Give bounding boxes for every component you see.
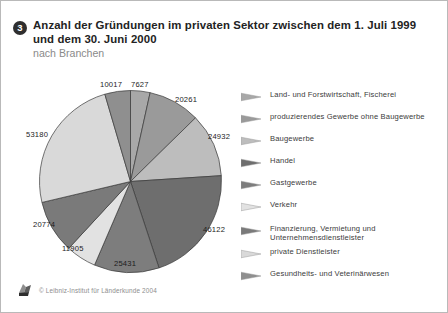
figure-number-badge: 3: [13, 21, 27, 35]
legend-marker-triangle-icon: [241, 180, 263, 190]
legend-label: private Dienstleister: [270, 248, 445, 257]
legend-marker-triangle-icon: [241, 114, 263, 124]
legend-label: Finanzierung, Vermietung und Unternehmen…: [270, 225, 445, 242]
pie-value-label: 7627: [131, 80, 149, 89]
legend-marker-triangle-icon: [241, 271, 263, 281]
legend-label: produzierendes Gewerbe ohne Baugewerbe: [270, 113, 445, 122]
page-subtitle: nach Branchen: [33, 47, 433, 60]
legend-label: Gastgewerbe: [270, 179, 445, 188]
legend-marker-triangle-icon: [241, 202, 263, 212]
leibniz-ifl-logo-icon: [15, 280, 35, 300]
pie-value-label: 20774: [33, 220, 55, 229]
copyright-text: © Leibniz-Institut für Länderkunde 2004: [39, 287, 157, 294]
pie-value-label: 24932: [208, 132, 230, 141]
pie-value-label: 25431: [114, 259, 136, 268]
legend-label: Gesundheits- und Veterinärwesen: [270, 270, 445, 279]
legend-marker-triangle-icon: [241, 226, 263, 236]
legend-marker-triangle-icon: [241, 136, 263, 146]
pie-value-label: 53180: [26, 130, 48, 139]
pie-value-label: 46122: [203, 225, 225, 234]
pie-value-label: 20261: [175, 95, 197, 104]
legend-marker-triangle-icon: [241, 158, 263, 168]
page-title: Anzahl der Gründungen im privaten Sektor…: [33, 18, 433, 46]
legend-label: Verkehr: [270, 201, 445, 210]
legend-label: Land- und Forstwirtschaft, Fischerei: [270, 91, 445, 100]
legend-label: Handel: [270, 157, 445, 166]
legend-label: Baugewerbe: [270, 135, 445, 144]
figure-panel: 3 Anzahl der Gründungen im privaten Sekt…: [0, 0, 448, 313]
legend-marker-triangle-icon: [241, 249, 263, 259]
pie-value-label: 11905: [62, 244, 84, 253]
legend-marker-triangle-icon: [241, 92, 263, 102]
figure-header: 3 Anzahl der Gründungen im privaten Sekt…: [1, 1, 448, 79]
pie-value-label: 10017: [100, 80, 122, 89]
